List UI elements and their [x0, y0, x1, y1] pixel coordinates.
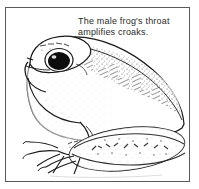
caption: The male frog's throat amplifies croaks. [78, 16, 186, 38]
eye-highlight [52, 55, 57, 59]
caption-line-2: amplifies croaks. [78, 27, 186, 38]
figure-root: The male frog's throat amplifies croaks. [0, 0, 199, 189]
eye-pupil [48, 52, 70, 70]
eye [45, 49, 73, 72]
illustration-frame: The male frog's throat amplifies croaks. [5, 7, 190, 182]
caption-line-1: The male frog's throat [78, 16, 186, 27]
